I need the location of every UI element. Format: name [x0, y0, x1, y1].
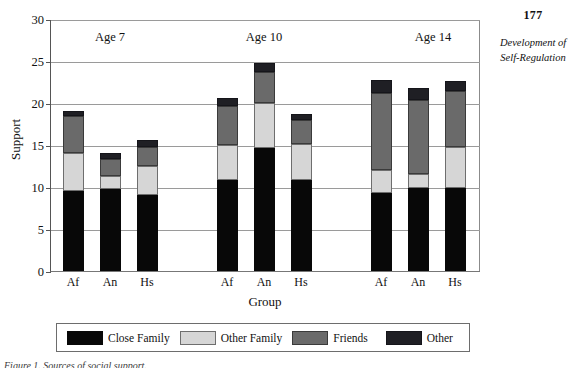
y-tick-label: 0: [38, 265, 44, 280]
legend-label: Other Family: [221, 332, 283, 344]
chart-legend: Close FamilyOther FamilyFriendsOther: [56, 323, 470, 352]
legend-item-other[interactable]: Other: [376, 331, 469, 345]
y-tick-label: 20: [32, 97, 45, 112]
bar-segment-other: [137, 140, 158, 147]
bar-an-7: [408, 88, 429, 271]
figure-stacked-bar-chart: Support 051015202530 AfAnHsAfAnHsAfAnHs …: [0, 0, 486, 368]
bar-segment-other: [371, 80, 392, 93]
bar-segment-other-family: [254, 103, 275, 148]
bar-af-0: [63, 111, 84, 271]
x-tick-label-af: Af: [375, 275, 388, 290]
legend-swatch-icon: [67, 331, 103, 345]
bar-segment-close-family: [63, 191, 84, 271]
bar-segment-other: [254, 63, 275, 72]
bar-segment-close-family: [254, 148, 275, 271]
bar-segment-close-family: [408, 188, 429, 271]
x-tick-label-an: An: [257, 275, 272, 290]
bar-hs-8: [445, 81, 466, 271]
bar-af-6: [371, 80, 392, 271]
y-tick-label: 5: [38, 223, 44, 238]
legend-item-other-family[interactable]: Other Family: [170, 331, 283, 345]
legend-swatch-icon: [292, 331, 328, 345]
x-tick-label-af: Af: [221, 275, 234, 290]
x-tick-label-hs: Hs: [140, 275, 153, 290]
bar-hs-5: [291, 114, 312, 271]
bar-segment-friends: [408, 100, 429, 173]
bar-segment-other-family: [445, 147, 466, 188]
bar-segment-other-family: [408, 174, 429, 188]
legend-swatch-icon: [180, 331, 216, 345]
bar-segment-close-family: [100, 189, 121, 271]
bar-segment-friends: [254, 72, 275, 103]
legend-label: Other: [427, 332, 453, 344]
bar-segment-other: [217, 98, 238, 106]
x-tick-label-an: An: [103, 275, 118, 290]
legend-swatch-icon: [386, 331, 422, 345]
bar-segment-friends: [100, 159, 121, 176]
y-tick-mark: [46, 62, 51, 63]
bar-segment-other: [63, 111, 84, 116]
bar-segment-other: [445, 81, 466, 91]
y-tick-label: 25: [32, 55, 45, 70]
bar-an-1: [100, 153, 121, 271]
y-tick-mark: [46, 272, 51, 273]
y-tick-label: 15: [32, 139, 45, 154]
legend-item-close-family[interactable]: Close Family: [57, 331, 170, 345]
figure-caption: Figure 1. Sources of social support.: [4, 360, 474, 368]
running-head: Development of Self-Regulation: [492, 35, 574, 65]
y-tick-label: 10: [32, 181, 45, 196]
bar-segment-close-family: [217, 180, 238, 271]
legend-label: Close Family: [108, 332, 170, 344]
bar-segment-other-family: [217, 145, 238, 180]
y-tick-mark: [46, 104, 51, 105]
bar-segment-friends: [445, 91, 466, 146]
bar-an-4: [254, 63, 275, 271]
bar-segment-other: [408, 88, 429, 101]
bar-segment-other-family: [371, 170, 392, 193]
bar-segment-close-family: [371, 193, 392, 271]
bar-segment-friends: [291, 120, 312, 144]
x-tick-label-af: Af: [67, 275, 80, 290]
bar-segment-other-family: [291, 144, 312, 180]
group-title-age-7: Age 7: [95, 30, 125, 45]
bar-segment-close-family: [137, 195, 158, 271]
y-tick-label: 30: [32, 13, 45, 28]
legend-label: Friends: [333, 332, 368, 344]
gridline: [51, 20, 480, 21]
bar-segment-friends: [63, 116, 84, 154]
bar-segment-close-family: [445, 188, 466, 271]
bar-segment-other-family: [100, 176, 121, 189]
group-title-age-10: Age 10: [246, 30, 282, 45]
bar-segment-other-family: [137, 166, 158, 195]
bar-hs-2: [137, 140, 158, 271]
bar-segment-close-family: [291, 180, 312, 271]
bar-segment-other: [100, 153, 121, 160]
group-title-age-14: Age 14: [415, 30, 451, 45]
legend-item-friends[interactable]: Friends: [282, 331, 375, 345]
plot-area: 051015202530 AfAnHsAfAnHsAfAnHs Age 7Age…: [50, 20, 480, 272]
bar-segment-friends: [217, 106, 238, 145]
bar-segment-friends: [371, 93, 392, 170]
y-tick-mark: [46, 20, 51, 21]
y-axis-label: Support: [8, 119, 24, 160]
bar-segment-other-family: [63, 153, 84, 191]
y-tick-mark: [46, 146, 51, 147]
bar-af-3: [217, 98, 238, 271]
y-tick-mark: [46, 230, 51, 231]
page-number: 177: [492, 8, 574, 23]
bar-segment-other: [291, 114, 312, 120]
page-margin-note: 177 Development of Self-Regulation: [492, 8, 574, 65]
y-tick-mark: [46, 188, 51, 189]
x-tick-label-hs: Hs: [448, 275, 461, 290]
x-tick-label-hs: Hs: [294, 275, 307, 290]
x-axis-label: Group: [50, 294, 480, 310]
x-tick-label-an: An: [411, 275, 426, 290]
bar-segment-friends: [137, 147, 158, 166]
